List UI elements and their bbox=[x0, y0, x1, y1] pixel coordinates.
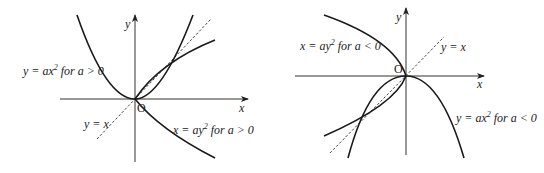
y-axis-label-right: y bbox=[395, 10, 402, 24]
left-graph: y = ax2 for a > 0 x = ay2 for a > 0 y = … bbox=[22, 15, 254, 162]
x-axis-label-left: x bbox=[238, 101, 245, 115]
line-y-equals-x bbox=[97, 19, 211, 139]
label-y-ax2-left: y = ax2 for a > 0 bbox=[22, 63, 104, 78]
parabola-diagram: y = ax2 for a > 0 x = ay2 for a > 0 y = … bbox=[0, 0, 544, 173]
origin-label-left: O bbox=[137, 101, 146, 115]
label-x-ay2-left: x = ay2 for a > 0 bbox=[172, 122, 254, 137]
line-y-equals-x bbox=[330, 37, 444, 153]
y-axis-label-left: y bbox=[124, 17, 131, 31]
label-x-ay2-right: x = ay2 for a < 0 bbox=[299, 38, 381, 53]
label-y-ax2-right: y = ax2 for a < 0 bbox=[455, 110, 537, 125]
origin-label-right: O bbox=[394, 62, 403, 76]
label-y-equals-x-right: y = x bbox=[440, 40, 466, 54]
x-axis-label-right: x bbox=[476, 77, 483, 91]
right-graph: x = ay2 for a < 0 y = ax2 for a < 0 y = … bbox=[295, 8, 537, 158]
label-y-equals-x-left: y = x bbox=[83, 117, 109, 131]
